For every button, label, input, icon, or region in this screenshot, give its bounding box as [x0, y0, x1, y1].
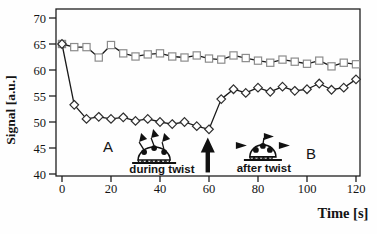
- diamond-marker: [278, 82, 287, 91]
- x-tick-label: 0: [59, 182, 65, 196]
- flag-pennant: [279, 142, 290, 149]
- x-axis-title: Time [s]: [318, 205, 369, 221]
- diamond-marker: [192, 122, 201, 131]
- square-marker: [95, 54, 102, 61]
- x-tick-label: 100: [298, 182, 317, 196]
- open-square-series-markers: [58, 40, 359, 70]
- during-twist-label: during twist: [129, 163, 194, 175]
- annotations-layer: Aduring twistafter twistB: [103, 129, 316, 175]
- y-tick-label: 65: [34, 38, 47, 52]
- y-tick-label: 55: [34, 90, 47, 104]
- x-tick-label: 80: [252, 182, 265, 196]
- y-tick-label: 45: [34, 142, 47, 156]
- diamond-marker: [303, 85, 312, 94]
- event-arrow: [201, 138, 215, 173]
- y-axis: 40455055606570Signal [a.u.]: [3, 12, 56, 182]
- flag-pole: [151, 138, 154, 146]
- square-marker: [316, 57, 323, 64]
- square-marker: [156, 50, 163, 57]
- molecule-site: [267, 147, 273, 153]
- arrow-head: [201, 138, 215, 153]
- x-tick-label: 20: [105, 182, 118, 196]
- square-marker: [352, 61, 359, 68]
- figure-page: 40455055606570Signal [a.u.] 020406080100…: [0, 0, 377, 234]
- flag-pennant: [162, 133, 170, 142]
- flag-pennant: [139, 133, 147, 142]
- signal-vs-time-chart: 40455055606570Signal [a.u.] 020406080100…: [0, 0, 377, 234]
- x-tick-label: 60: [203, 182, 216, 196]
- diamond-marker: [131, 117, 140, 126]
- square-marker: [120, 50, 127, 57]
- square-marker: [303, 60, 310, 67]
- square-marker: [132, 53, 139, 60]
- square-marker: [328, 63, 335, 70]
- square-marker: [254, 57, 261, 64]
- diamond-marker: [254, 83, 263, 92]
- diamond-marker: [315, 79, 324, 88]
- square-marker: [291, 58, 298, 65]
- square-marker: [242, 54, 249, 61]
- label-a: A: [103, 138, 113, 155]
- diamond-marker: [241, 89, 250, 98]
- diamond-marker: [156, 118, 165, 127]
- series-layer: [58, 40, 361, 134]
- flag-pennant: [264, 133, 274, 140]
- square-marker: [340, 59, 347, 66]
- square-marker: [107, 41, 114, 48]
- diamond-marker: [339, 83, 348, 92]
- diamond-marker: [352, 75, 361, 84]
- diamond-marker: [266, 88, 275, 97]
- square-marker: [71, 44, 78, 51]
- y-tick-label: 50: [34, 116, 47, 130]
- flag-pole: [139, 142, 144, 150]
- square-marker: [193, 52, 200, 59]
- diamond-marker: [290, 87, 299, 96]
- square-marker: [230, 52, 237, 59]
- square-marker: [181, 54, 188, 61]
- x-axis: 020406080100120Time [s]: [59, 176, 369, 221]
- square-marker: [279, 56, 286, 63]
- diamond-marker: [143, 115, 152, 124]
- diamond-marker: [327, 85, 336, 94]
- x-tick-label: 40: [154, 182, 167, 196]
- after-twist-icon: [236, 133, 290, 160]
- y-axis-title: Signal [a.u.]: [3, 75, 18, 144]
- square-marker: [267, 59, 274, 66]
- diamond-marker: [107, 115, 116, 124]
- flag-pennant: [151, 129, 159, 138]
- diamond-marker: [180, 118, 189, 127]
- square-marker: [169, 53, 176, 60]
- square-marker: [205, 55, 212, 62]
- after-twist-label: after twist: [237, 162, 291, 174]
- y-tick-label: 60: [34, 64, 47, 78]
- diamond-marker: [205, 125, 214, 134]
- square-marker: [83, 44, 90, 51]
- diamond-marker: [119, 113, 128, 122]
- diamond-marker: [94, 113, 103, 122]
- label-b: B: [306, 145, 316, 162]
- diamond-marker: [168, 120, 177, 129]
- y-tick-label: 70: [34, 12, 47, 26]
- square-marker: [218, 56, 225, 63]
- arrow-stem: [206, 151, 210, 173]
- square-marker: [144, 51, 151, 58]
- y-tick-label: 40: [34, 168, 47, 182]
- x-tick-label: 120: [347, 182, 366, 196]
- during-twist-icon: [132, 129, 176, 163]
- flag-pennant: [236, 142, 247, 149]
- molecule-site: [253, 147, 259, 153]
